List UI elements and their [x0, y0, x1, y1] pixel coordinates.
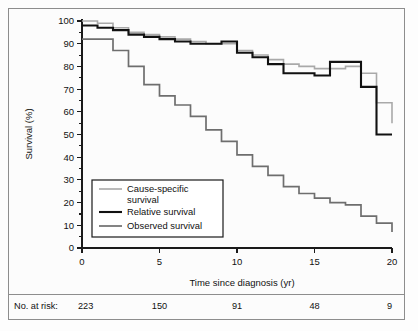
legend-label-1-cont: survival	[127, 194, 159, 205]
legend-label-1: Cause-specific	[127, 183, 189, 194]
y-tick-label: 40	[63, 152, 74, 163]
y-tick-label: 0	[69, 242, 74, 253]
risk-table-values: 22315091489	[78, 301, 392, 311]
risk-count-1: 223	[78, 301, 93, 311]
y-axis-ticks: 0102030405060708090100	[58, 15, 82, 253]
y-tick-label: 60	[63, 106, 74, 117]
y-tick-label: 20	[63, 197, 74, 208]
survival-chart: Survival (%) 0102030405060708090100 0510…	[0, 0, 418, 331]
x-axis-title: Time since diagnosis (yr)	[189, 277, 294, 288]
x-tick-label: 10	[232, 256, 243, 267]
risk-table-label: No. at risk:	[14, 301, 58, 311]
y-tick-label: 80	[63, 61, 74, 72]
x-tick-label: 5	[157, 256, 162, 267]
y-tick-label: 50	[63, 129, 74, 140]
curve-cause-specific-survival	[82, 21, 392, 123]
y-tick-label: 10	[63, 220, 74, 231]
y-axis-title: Survival (%)	[23, 108, 34, 159]
y-tick-label: 30	[63, 174, 74, 185]
curve-relative-survival	[82, 26, 392, 135]
x-tick-label: 15	[309, 256, 320, 267]
risk-count-2: 150	[152, 301, 167, 311]
x-tick-label: 20	[387, 256, 398, 267]
x-tick-label: 0	[79, 256, 84, 267]
y-tick-label: 100	[58, 15, 74, 26]
legend-label-3: Observed survival	[127, 220, 202, 231]
risk-count-4: 48	[309, 301, 319, 311]
legend-label-2: Relative survival	[127, 206, 195, 217]
figure-container: Survival (%) 0102030405060708090100 0510…	[0, 0, 418, 331]
risk-count-3: 91	[232, 301, 242, 311]
y-tick-label: 70	[63, 84, 74, 95]
y-tick-label: 90	[63, 38, 74, 49]
risk-count-5: 9	[387, 301, 392, 311]
x-axis-ticks: 05101520	[79, 248, 397, 267]
